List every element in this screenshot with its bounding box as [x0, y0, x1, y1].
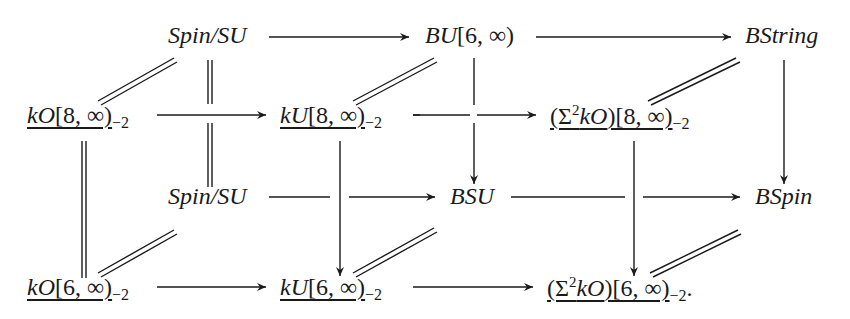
node-label: Spin/SU: [168, 183, 247, 209]
node-label: BSpin: [755, 183, 812, 209]
node-bu-6-inf: BU[6, ∞): [425, 23, 514, 47]
node-sigma2-ko-6-inf: (Σ2kO)[6, ∞)−2.: [547, 275, 693, 304]
node-label-roman: )[6, ∞): [604, 275, 669, 301]
node-spin-su-top: Spin/SU: [168, 23, 247, 47]
eq-sigma6-bspin-a: [650, 230, 738, 273]
eq-ku8-bu-a: [353, 58, 434, 101]
eq-sigma8-bstring-a: [648, 58, 736, 101]
node-bstring: BString: [745, 23, 818, 47]
node-ku-6-inf: kU[6, ∞)−2: [280, 275, 382, 303]
node-subscript: −2: [365, 114, 382, 131]
node-subscript: −2: [670, 287, 687, 304]
eq-sigma8-bstring-b: [651, 62, 740, 105]
node-ko-6-inf: kO[6, ∞)−2: [27, 275, 129, 303]
node-label-pre: (Σ: [550, 103, 572, 129]
node-label-italic: kU: [280, 102, 308, 128]
eq-sigma6-bspin-b: [653, 234, 741, 277]
node-subscript: −2: [112, 286, 129, 303]
node-label-italic: kO: [579, 103, 607, 129]
node-label: BSU: [450, 183, 494, 209]
node-label-roman: )[8, ∞): [607, 103, 672, 129]
node-label-roman: [6, ∞): [55, 274, 112, 300]
node-ko-8-inf: kO[8, ∞)−2: [27, 103, 129, 131]
eq-ku6-bsu-b: [356, 232, 437, 277]
eq-ko8-spinsu-a: [98, 58, 174, 101]
node-subscript: −2: [112, 114, 129, 131]
node-label-roman: [6, ∞): [457, 22, 514, 48]
node-label: Spin/SU: [168, 22, 247, 48]
node-subscript: −2: [673, 115, 690, 132]
eq-ko8-spinsu-b: [101, 62, 177, 105]
node-label-italic: kO: [27, 102, 55, 128]
commutative-cube-diagram: Spin/SU BU[6, ∞) BString kO[8, ∞)−2 kU[8…: [0, 0, 850, 319]
eq-ko6-spinsu-a: [98, 230, 174, 273]
node-label-italic: kU: [280, 274, 308, 300]
node-label-italic: BU: [425, 22, 457, 48]
node-label-italic: kO: [27, 274, 55, 300]
node-subscript: −2: [365, 286, 382, 303]
node-label-roman: [8, ∞): [308, 102, 365, 128]
node-ku-8-inf: kU[8, ∞)−2: [280, 103, 382, 131]
node-label-roman: [8, ∞): [55, 102, 112, 128]
eq-ko6-spinsu-b: [101, 234, 177, 277]
node-bsu: BSU: [450, 184, 494, 208]
trailing-period: .: [687, 275, 693, 301]
node-sigma2-ko-8-inf: (Σ2kO)[8, ∞)−2: [550, 103, 690, 132]
node-spin-su-bottom: Spin/SU: [168, 184, 247, 208]
node-label-pre: (Σ: [547, 275, 569, 301]
node-bspin: BSpin: [755, 184, 812, 208]
node-label: BString: [745, 22, 818, 48]
eq-ku6-bsu-a: [353, 228, 434, 273]
node-label-italic: kO: [576, 275, 604, 301]
node-label-roman: [6, ∞): [308, 274, 365, 300]
eq-ku8-bu-b: [356, 62, 437, 105]
